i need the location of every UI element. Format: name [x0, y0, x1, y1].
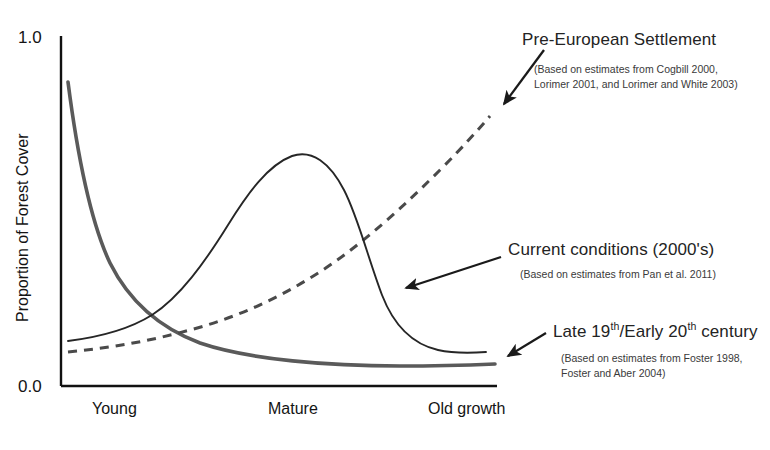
y-axis-title: Proportion of Forest Cover [14, 133, 32, 322]
annotation-late-19th-citation: (Based on estimates from Foster 1998, Fo… [561, 351, 770, 381]
annotation-late-19th-title-part3: century [696, 322, 757, 341]
annotation-late-19th-title-part2: /Early 20 [619, 322, 687, 341]
x-label-old-growth: Old growth [428, 400, 505, 418]
x-label-mature: Mature [268, 400, 318, 418]
annotation-late-19th-citation-line2: Foster and Aber 2004) [561, 367, 665, 379]
x-label-young: Young [92, 400, 137, 418]
annotation-pre-european-citation-line1: (Based on estimates from Cogbill 2000, [534, 63, 718, 75]
annotation-late-19th-title-part1: Late 19 [553, 322, 610, 341]
y-axis-tick-top: 1.0 [18, 28, 42, 48]
annotation-current-citation: (Based on estimates from Pan et al. 2011… [520, 267, 760, 282]
annotation-late-19th-citation-line1: (Based on estimates from Foster 1998, [561, 352, 743, 364]
annotation-pre-european-citation: (Based on estimates from Cogbill 2000, L… [534, 62, 762, 92]
y-axis-tick-bottom: 0.0 [18, 377, 42, 397]
annotation-late-19th-title: Late 19th/Early 20th century [553, 322, 758, 342]
annotation-pre-european-title: Pre-European Settlement [522, 30, 716, 50]
annotation-pre-european-citation-line2: Lorimer 2001, and Lorimer and White 2003… [534, 78, 738, 90]
annotation-current-title: Current conditions (2000's) [508, 240, 714, 260]
annotation-current-citation-line1: (Based on estimates from Pan et al. 2011… [520, 268, 716, 280]
